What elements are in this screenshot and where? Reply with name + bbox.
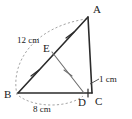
geometry-diagram: A B C D E 12 cm 8 cm 1 cm bbox=[0, 0, 132, 119]
measure-label-bd: 8 cm bbox=[33, 104, 51, 114]
dashed-arc-bd bbox=[19, 96, 83, 105]
segment-ac bbox=[88, 17, 92, 93]
vertex-label-b: B bbox=[4, 88, 11, 100]
segment-ba bbox=[18, 17, 88, 93]
vertex-label-d: D bbox=[78, 96, 86, 108]
geometry-canvas: A B C D E 12 cm 8 cm 1 cm bbox=[0, 0, 132, 119]
vertex-label-c: C bbox=[95, 95, 102, 107]
measure-label-ba: 12 cm bbox=[17, 35, 39, 45]
tick-on-ed-icon bbox=[64, 70, 72, 76]
measure-label-dc: 1 cm bbox=[99, 74, 117, 84]
vertex-label-a: A bbox=[93, 3, 101, 15]
vertex-label-e: E bbox=[43, 42, 50, 54]
